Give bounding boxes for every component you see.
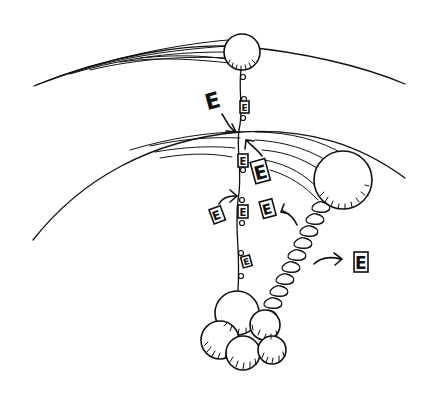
svg-text:E: E — [355, 253, 367, 273]
e-label-chain-4: E — [241, 255, 253, 268]
e-label-chain-1: E — [240, 101, 249, 113]
e-label-mid-right: E — [250, 159, 270, 185]
e-label-far-right: E — [354, 252, 368, 273]
e-label-left-small: E — [209, 206, 225, 224]
e-label-spring-side: E — [259, 199, 276, 219]
arrow-far-right — [314, 253, 342, 265]
sphere-cluster — [201, 291, 286, 370]
arrow-left-small — [219, 190, 237, 204]
e-label-chain-2: E — [238, 154, 248, 167]
drawing-canvas: E E E E E E E E E — [0, 0, 433, 394]
svg-text:E: E — [251, 160, 269, 185]
svg-text:E: E — [240, 156, 247, 167]
arrow-spring-side — [281, 204, 297, 225]
right-sphere — [314, 151, 372, 209]
svg-text:E: E — [242, 103, 248, 113]
e-label-top: E — [202, 87, 223, 115]
upper-sphere — [224, 34, 260, 70]
arrow-top — [222, 114, 236, 132]
e-label-chain-3: E — [238, 205, 248, 218]
svg-text:E: E — [202, 87, 223, 115]
svg-text:E: E — [240, 207, 247, 218]
illustration: E E E E E E E E E — [0, 0, 433, 394]
